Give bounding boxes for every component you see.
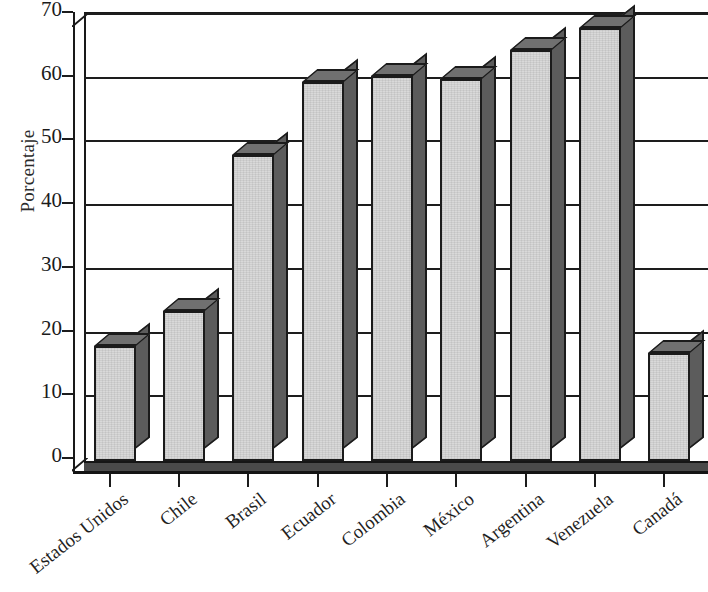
bar-front-face	[302, 82, 344, 461]
y-axis-tick-mark	[62, 330, 73, 332]
x-axis-category-label: Argentina	[416, 488, 548, 592]
y-axis-tick-label: 70	[14, 0, 62, 20]
bar-side-face	[619, 4, 635, 450]
x-axis-category-label: México	[347, 488, 479, 592]
bar	[94, 346, 136, 461]
y-axis-tick-mark	[62, 393, 73, 395]
plot-area	[73, 12, 708, 472]
bar	[648, 353, 690, 461]
y-axis-tick-labels: 706050403020100	[10, 0, 62, 592]
axis-baseline	[73, 471, 708, 474]
x-axis-tick-mark	[525, 474, 527, 487]
x-axis-tick-mark	[594, 474, 596, 487]
plot-frame-left-inner	[84, 12, 86, 472]
bar	[371, 76, 413, 461]
x-axis-tick-mark	[109, 474, 111, 487]
x-axis-category-label: Venezuela	[486, 488, 618, 592]
bar-front-face	[440, 79, 482, 461]
x-axis-category-label: Brasil	[139, 488, 271, 592]
plot-frame-left-outer	[73, 12, 75, 472]
y-axis-tick-mark	[62, 202, 73, 204]
x-axis-category-label: Canadá	[555, 488, 687, 592]
bar	[232, 155, 274, 461]
x-axis-tick-mark	[247, 474, 249, 487]
bar	[440, 79, 482, 461]
x-axis-category-label: Ecuador	[208, 488, 340, 592]
bar	[579, 28, 621, 461]
y-axis-tick-label: 10	[14, 381, 62, 402]
x-axis-tick-mark	[386, 474, 388, 487]
bar-front-face	[371, 76, 413, 461]
bar-front-face	[579, 28, 621, 461]
bar-front-face	[510, 50, 552, 461]
y-axis-tick-label: 60	[14, 63, 62, 84]
y-axis-tick-mark	[62, 11, 73, 13]
x-axis-tick-mark	[317, 474, 319, 487]
bar-front-face	[232, 155, 274, 461]
x-axis-tick-mark	[663, 474, 665, 487]
y-axis-tick-mark	[62, 138, 73, 140]
x-axis-tick-mark	[178, 474, 180, 487]
y-axis-tick-mark	[62, 457, 73, 459]
bar-front-face	[94, 346, 136, 461]
y-axis-tick-mark	[62, 266, 73, 268]
y-axis-tick-label: 0	[14, 445, 62, 466]
y-axis-tick-label: 20	[14, 318, 62, 339]
bar	[302, 82, 344, 461]
bar-side-face	[550, 27, 566, 450]
bar-front-face	[648, 353, 690, 461]
y-axis-tick-label: 50	[14, 126, 62, 147]
x-axis-tick-mark	[455, 474, 457, 487]
bar-side-face	[203, 288, 219, 450]
bar-side-face	[272, 132, 288, 450]
x-axis-category-label: Colombia	[278, 488, 410, 592]
bar-front-face	[163, 311, 205, 461]
y-axis-tick-mark	[62, 75, 73, 77]
bar-side-face	[342, 58, 358, 450]
x-axis-category-label: Chile	[70, 488, 202, 592]
bar	[510, 50, 552, 461]
y-axis-tick-label: 40	[14, 190, 62, 211]
bar	[163, 311, 205, 461]
bar-side-face	[411, 52, 427, 450]
y-axis-tick-label: 30	[14, 254, 62, 275]
bar-side-face	[480, 55, 496, 450]
bar-chart: Porcentaje 706050403020100 Estados Unido…	[0, 0, 708, 592]
